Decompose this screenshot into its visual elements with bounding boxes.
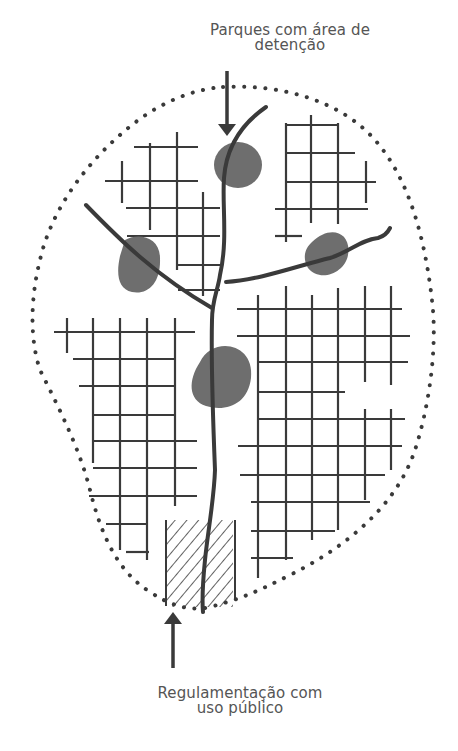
label-public-use-regulation: Regulamentação com uso público: [100, 686, 380, 716]
drainage-diagram: [0, 0, 458, 751]
arrow-up-icon: [164, 612, 182, 668]
urban-grid-upper-right: [275, 115, 376, 242]
urban-grid-lower-right: [237, 286, 410, 578]
detention-park-top: [214, 142, 262, 188]
arrow-down-icon: [218, 71, 236, 136]
label-public-use-regulation-line2: uso público: [100, 701, 380, 716]
detention-park-center: [192, 346, 252, 408]
hatched-public-use-zone: [166, 520, 235, 607]
